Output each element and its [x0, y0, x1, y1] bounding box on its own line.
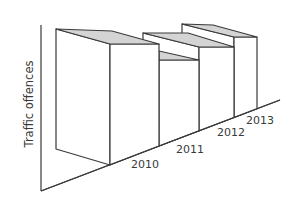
bar-2013-front: [234, 37, 257, 118]
x-tick-2011: 2011: [176, 143, 204, 156]
bar-2011: [159, 51, 199, 146]
y-axis-label: Traffic offences: [22, 61, 36, 149]
x-tick-2013: 2013: [246, 114, 274, 127]
bar-2012-front: [199, 47, 234, 131]
bar-chart-3d: 2010 2011 2012 2013 Traffic offences: [0, 0, 295, 200]
x-tick-2012: 2012: [217, 126, 245, 139]
bar-2010: [56, 29, 159, 165]
bar-2010-front: [110, 44, 159, 165]
bar-2010-side: [56, 29, 110, 165]
x-tick-2010: 2010: [131, 158, 159, 171]
